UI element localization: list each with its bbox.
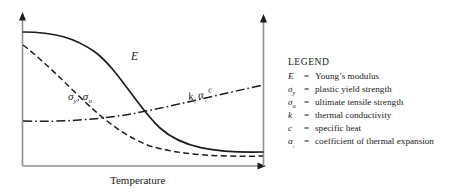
legend-equals: = xyxy=(304,70,315,83)
legend-row: c = specific heat xyxy=(287,122,467,135)
legend-equals: = xyxy=(304,135,315,148)
legend-definition: thermal conductivity xyxy=(315,109,467,122)
legend-row: α, = coefficient of thermal expansion xyxy=(287,135,467,148)
legend-equals: = xyxy=(304,109,315,122)
legend-definition: plastic yield strength xyxy=(315,83,467,96)
legend-definition: specific heat xyxy=(315,122,467,135)
x-axis-arrowhead xyxy=(258,163,267,170)
figure-container: E σy, σu k, α, c Temperature LEGEND E = … xyxy=(0,0,472,196)
legend-row: k = thermal conductivity xyxy=(287,109,467,122)
y-axis-left-arrowhead xyxy=(19,12,26,21)
legend-equals: = xyxy=(304,122,315,135)
legend-equals: = xyxy=(304,83,315,96)
curve-label-sigma: σy, σu xyxy=(68,90,92,104)
legend-symbol: k xyxy=(287,109,304,122)
legend-definition: Young’s modulus xyxy=(315,70,467,83)
legend-row: σy = plastic yield strength xyxy=(287,83,467,96)
legend-row: E = Young’s modulus xyxy=(287,70,467,83)
legend-symbol: α, xyxy=(287,135,304,151)
x-axis-title: Temperature xyxy=(110,174,165,186)
curve-label-e: E xyxy=(131,50,138,62)
curve-sigma xyxy=(23,45,263,156)
legend-equals: = xyxy=(304,96,315,109)
curve-E xyxy=(23,32,263,152)
legend-title: LEGEND xyxy=(287,56,467,67)
legend-definition: ultimate tensile strength xyxy=(315,96,467,109)
legend-symbol: c xyxy=(287,122,304,135)
legend-symbol: E xyxy=(287,70,304,83)
curve-k-alpha-c xyxy=(23,85,263,121)
y-axis-right-arrowhead xyxy=(260,14,267,23)
legend-row: σu = ultimate tensile strength xyxy=(287,96,467,109)
legend: LEGEND E = Young’s modulus σy = plastic … xyxy=(287,56,467,149)
legend-definition: coefficient of thermal expansion xyxy=(315,135,467,148)
